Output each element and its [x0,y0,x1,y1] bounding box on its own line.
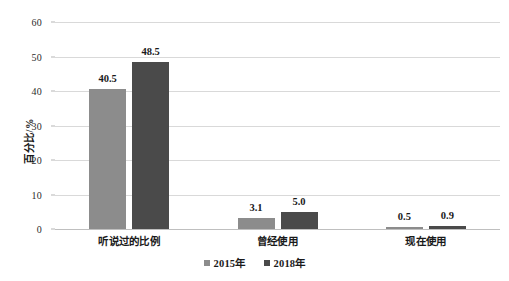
y-axis-tick-label: 30 [32,120,42,131]
y-axis-tick-mark [51,160,55,161]
y-axis-tick-mark [51,194,55,195]
bar-value-label: 0.9 [441,210,454,221]
y-axis-tick-label: 50 [32,51,42,62]
x-axis-category-label: 曾经使用 [257,233,298,248]
legend-label: 2018年 [274,255,306,270]
gridline [55,57,500,58]
bar-value-label: 48.5 [141,46,159,57]
bar [132,62,169,229]
y-axis-tick-mark [51,22,55,23]
bar-chart: 百分比/% 0102030405060 听说过的比例曾经使用现在使用 2015年… [0,0,509,281]
y-axis-tick-mark [51,56,55,57]
bar-value-label: 0.5 [398,211,411,222]
legend-color-swatch [204,260,210,266]
legend-item[interactable]: 2018年 [264,255,306,270]
axis-baseline [55,229,500,230]
y-axis-tick-label: 60 [32,17,42,28]
gridline [55,22,500,23]
y-axis-tick-mark [51,229,55,230]
bar-value-label: 5.0 [292,196,305,207]
bar [281,212,318,229]
legend-label: 2015年 [214,255,246,270]
bar-value-label: 40.5 [98,73,116,84]
x-axis-category-label: 听说过的比例 [98,233,160,248]
y-axis-tick-label: 10 [32,189,42,200]
plot-area [55,22,500,229]
chart-legend: 2015年2018年 [0,255,509,270]
bar [429,226,466,229]
x-axis-category-label: 现在使用 [405,233,446,248]
bar [238,218,275,229]
legend-item[interactable]: 2015年 [204,255,246,270]
bar [386,227,423,229]
y-axis-tick-label: 40 [32,86,42,97]
legend-color-swatch [264,260,270,266]
y-axis-tick-mark [51,91,55,92]
bar [89,89,126,229]
y-axis-tick-label: 20 [32,155,42,166]
y-axis-tick-labels: 0102030405060 [0,22,50,229]
bar-value-label: 3.1 [249,202,262,213]
y-axis-tick-mark [51,125,55,126]
y-axis-tick-label: 0 [37,224,42,235]
